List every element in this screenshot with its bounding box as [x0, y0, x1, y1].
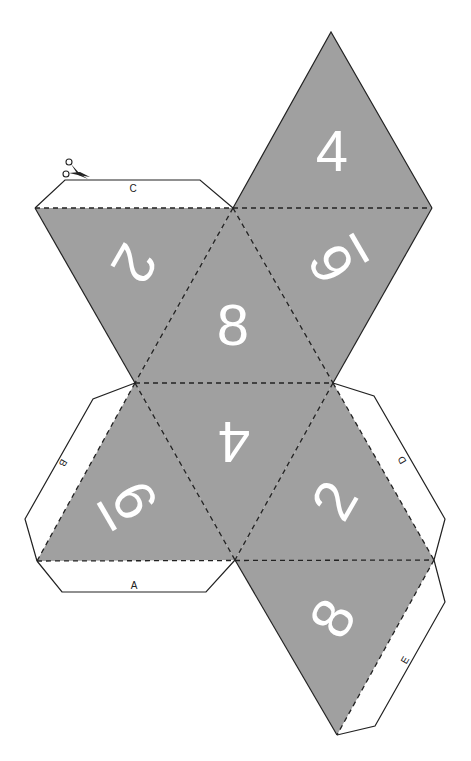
- tab-c-label: C: [129, 183, 136, 194]
- tab-d-label: D: [395, 454, 408, 466]
- face-number-upper-center: 8: [217, 292, 249, 357]
- face-number-lower-center: 4: [218, 410, 250, 475]
- face-number-top: 4: [316, 118, 348, 183]
- octahedron-net: 4 2 8 6 6 4 2 8 C B A D E: [0, 0, 471, 761]
- face-bottom: [235, 560, 434, 735]
- tab-a-label: A: [131, 580, 138, 591]
- scissors-icon: [63, 159, 90, 179]
